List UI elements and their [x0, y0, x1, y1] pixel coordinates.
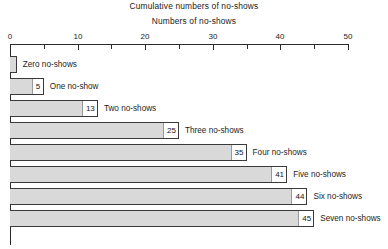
bar-row: 35Four no-shows — [0, 144, 388, 161]
bar-1 — [10, 56, 17, 73]
bar-6 — [10, 166, 287, 183]
x-axis-tick-label-30: 30 — [209, 32, 218, 41]
bar-label-6: Five no-shows — [293, 166, 346, 183]
x-axis: 01020304050 — [0, 30, 388, 48]
bar-4 — [10, 122, 179, 139]
plot-area: Zero no-shows5One no-show13Two no-shows2… — [0, 48, 388, 249]
bar-value-6: 41 — [271, 167, 286, 182]
bar-5 — [10, 144, 247, 161]
page-title: Cumulative numbers of no-shows — [0, 1, 388, 11]
bar-label-8: Seven no-shows — [320, 210, 381, 227]
bar-row: 13Two no-shows — [0, 100, 388, 117]
bar-label-4: Three no-shows — [185, 122, 244, 139]
bar-value-4: 25 — [163, 123, 178, 138]
bar-row: 41Five no-shows — [0, 166, 388, 183]
bar-row: 5One no-show — [0, 78, 388, 95]
bar-row: 44Six no-shows — [0, 188, 388, 205]
x-axis-tick-label-0: 0 — [8, 32, 12, 41]
bar-value-2: 5 — [32, 79, 43, 94]
x-axis-tick-label-10: 10 — [74, 32, 83, 41]
bar-7 — [10, 188, 307, 205]
bar-row: Zero no-shows — [0, 56, 388, 73]
cumulative-no-shows-chart: Cumulative numbers of no-shows Numbers o… — [0, 0, 388, 249]
bar-row: 45Seven no-shows — [0, 210, 388, 227]
bar-8 — [10, 210, 314, 227]
bar-label-3: Two no-shows — [104, 100, 156, 117]
bar-label-1: Zero no-shows — [23, 56, 77, 73]
bar-value-7: 44 — [291, 189, 306, 204]
bar-label-7: Six no-shows — [313, 188, 362, 205]
x-axis-tick-label-40: 40 — [276, 32, 285, 41]
bar-value-5: 35 — [231, 145, 246, 160]
bar-value-3: 13 — [82, 101, 97, 116]
x-axis-title: Numbers of no-shows — [0, 16, 388, 26]
bar-value-8: 45 — [298, 211, 313, 226]
bar-label-2: One no-show — [50, 78, 99, 95]
bar-label-5: Four no-shows — [253, 144, 307, 161]
bar-row: 25Three no-shows — [0, 122, 388, 139]
x-axis-tick-label-50: 50 — [344, 32, 353, 41]
x-axis-tick-label-20: 20 — [141, 32, 150, 41]
